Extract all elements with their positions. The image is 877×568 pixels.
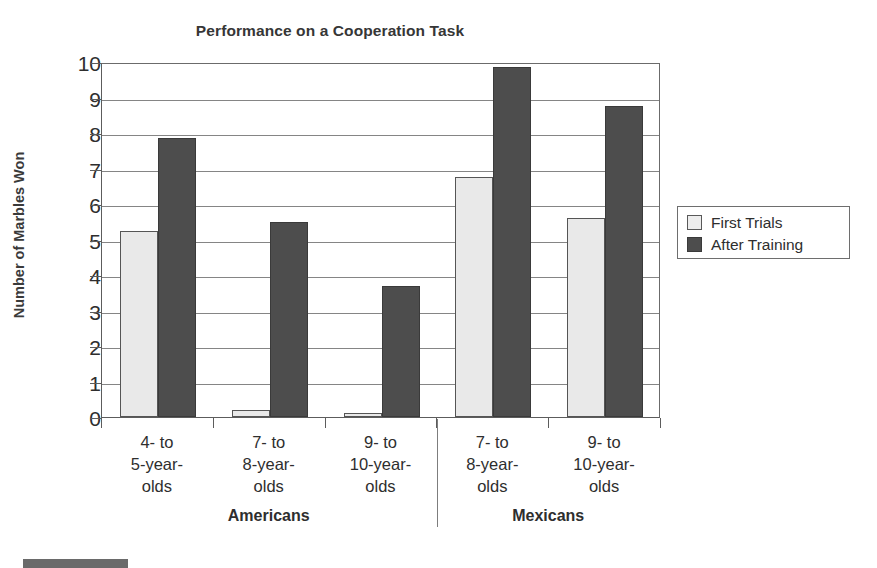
x-category-label-line: 7- to	[436, 432, 548, 454]
y-tick-mark	[90, 276, 101, 277]
y-axis-title: Number of Marbles Won	[6, 120, 32, 350]
gridline	[102, 100, 659, 101]
x-category-label-2: 9- to10-year-olds	[325, 432, 437, 497]
legend-item-1[interactable]: After Training	[687, 234, 849, 255]
legend-label: First Trials	[711, 214, 782, 232]
bar-0-2	[344, 413, 382, 417]
group-label-1: Mexicans	[436, 507, 660, 525]
x-category-label-line: olds	[213, 476, 325, 498]
x-category-label-line: 9- to	[325, 432, 437, 454]
y-tick-mark	[90, 241, 101, 242]
bar-1-4	[605, 106, 643, 417]
legend-label: After Training	[711, 236, 803, 254]
x-category-label-line: 10-year-	[325, 454, 437, 476]
legend-item-0[interactable]: First Trials	[687, 212, 849, 233]
legend-swatch-icon	[687, 237, 702, 252]
x-tick-mark	[660, 418, 661, 428]
y-tick-mark	[90, 383, 101, 384]
x-category-label-4: 9- to10-year-olds	[548, 432, 660, 497]
bar-0-3	[455, 177, 493, 417]
y-axis-title-text: Number of Marbles Won	[11, 152, 27, 319]
bar-0-4	[567, 218, 605, 417]
x-category-label-1: 7- to8-year-olds	[213, 432, 325, 497]
y-tick-mark	[90, 170, 101, 171]
bar-1-3	[493, 67, 531, 417]
y-tick-mark	[90, 205, 101, 206]
bar-0-0	[120, 231, 158, 417]
plot-area	[101, 63, 660, 418]
x-category-label-line: olds	[101, 476, 213, 498]
y-tick-mark	[90, 418, 101, 419]
x-category-label-line: 5-year-	[101, 454, 213, 476]
y-tick-mark	[90, 347, 101, 348]
x-tick-mark	[325, 418, 326, 428]
bar-0-1	[232, 410, 270, 417]
x-category-label-line: 4- to	[101, 432, 213, 454]
y-tick-mark	[90, 134, 101, 135]
x-category-label-line: 7- to	[213, 432, 325, 454]
scan-artifact	[23, 559, 128, 568]
bar-1-1	[270, 222, 308, 417]
y-axis-ticks: 109876543210	[45, 63, 101, 418]
x-category-label-line: olds	[325, 476, 437, 498]
x-tick-mark	[101, 418, 102, 428]
x-category-label-line: olds	[436, 476, 548, 498]
x-category-label-line: 8-year-	[436, 454, 548, 476]
y-tick-mark	[90, 63, 101, 64]
bar-1-0	[158, 138, 196, 417]
chart-legend: First TrialsAfter Training	[677, 206, 850, 259]
bar-1-2	[382, 286, 420, 417]
x-tick-mark	[548, 418, 549, 428]
x-category-label-line: 10-year-	[548, 454, 660, 476]
gridline	[102, 135, 659, 136]
x-category-label-line: 8-year-	[213, 454, 325, 476]
legend-swatch-icon	[687, 215, 702, 230]
x-category-label-line: 9- to	[548, 432, 660, 454]
y-tick-mark	[90, 99, 101, 100]
chart-title: Performance on a Cooperation Task	[0, 22, 660, 40]
x-category-label-3: 7- to8-year-olds	[436, 432, 548, 497]
y-tick-mark	[90, 312, 101, 313]
x-tick-mark	[213, 418, 214, 428]
x-category-label-line: olds	[548, 476, 660, 498]
group-label-0: Americans	[101, 507, 436, 525]
x-category-label-0: 4- to5-year-olds	[101, 432, 213, 497]
